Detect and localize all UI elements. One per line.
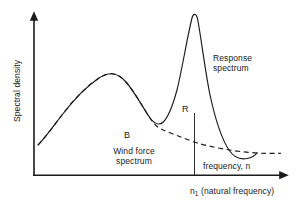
response-spectrum-label: Response spectrum [213,53,252,73]
spectral-density-figure: Spectral density Response spectrum B Win… [0,0,297,207]
background-region-label: B [124,130,130,140]
plot-canvas [0,0,297,207]
natural-frequency-description: (natural frequency) [199,186,275,196]
natural-frequency-label: n1 (natural frequency) [190,186,274,199]
x-axis-label: frequency, n [203,161,250,171]
y-axis-label: Spectral density [12,46,22,136]
response-spectrum-curve [38,14,257,159]
resonant-region-label: R [182,104,189,114]
wind-force-spectrum-label: Wind force spectrum [101,146,167,166]
wind-force-spectrum-curve [38,74,281,154]
